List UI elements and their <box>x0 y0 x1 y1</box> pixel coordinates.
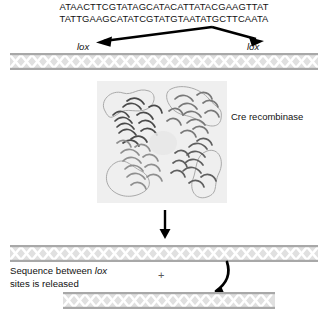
release-caption-line1: Sequence between lox <box>10 265 107 278</box>
curved-arrow-icon <box>212 262 228 295</box>
sequence-bottom-strand: TATTGAAGCATATCGTATGTAATATGCTTCAATA <box>0 13 328 25</box>
plus-symbol: + <box>158 269 164 281</box>
dna-duplex-icon <box>63 292 275 309</box>
lox-sequence-block: ATAACTTCGTATAGCATACATTATACGAAGTTAT TATTG… <box>0 1 328 24</box>
release-caption-line2: sites is released <box>10 278 107 291</box>
sequence-top-strand: ATAACTTCGTATAGCATACATTATACGAAGTTAT <box>0 1 328 13</box>
dna-duplex-middle <box>10 245 318 262</box>
protein-label: Cre recombinase <box>231 111 303 122</box>
cre-lox-diagram: ATAACTTCGTATAGCATACATTATACGAAGTTAT TATTG… <box>0 0 328 312</box>
lox-label-right: lox <box>247 41 259 52</box>
dna-duplex-icon <box>10 245 318 262</box>
lox-label-left: lox <box>77 41 89 52</box>
release-caption: Sequence between lox sites is released <box>10 265 107 290</box>
dna-duplex-icon <box>10 53 318 70</box>
protein-structure-image <box>97 81 227 203</box>
dna-duplex-excised <box>63 292 275 309</box>
release-caption-lox: lox <box>95 265 107 276</box>
dna-duplex-top <box>10 53 318 70</box>
protein-ribbon-icon <box>97 81 227 203</box>
arrowhead-left <box>96 37 112 47</box>
double-arrow-down-icon <box>104 27 256 41</box>
arrow-down-icon <box>160 210 171 239</box>
release-caption-prefix: Sequence between <box>10 265 95 276</box>
